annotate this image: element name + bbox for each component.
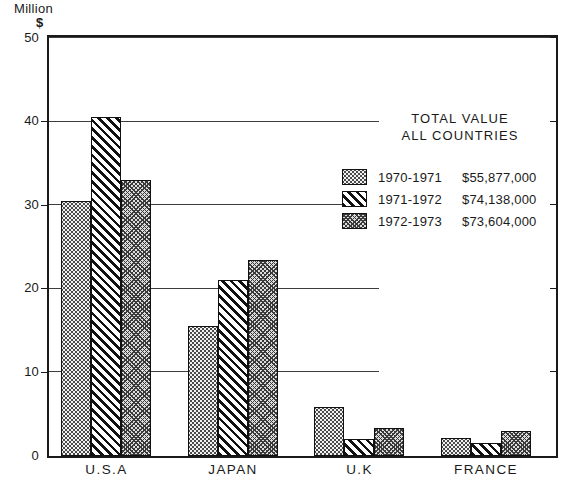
plot-area [47, 35, 558, 458]
y-axis-unit: $ [36, 15, 43, 30]
y-tick-label-30: 30 [5, 197, 39, 212]
right-tick-40 [550, 121, 556, 122]
legend-title-line-1: TOTAL VALUE [385, 110, 535, 127]
legend-row: 1971-1972$74,138,000 [342, 188, 540, 210]
bar [314, 407, 344, 456]
legend-swatch-icon [342, 191, 367, 207]
bar [374, 428, 404, 456]
legend-series-total: $55,877,000 [462, 170, 540, 185]
legend-series-total: $73,604,000 [462, 214, 540, 229]
y-tick-mark-20 [41, 288, 48, 289]
y-axis-title: Million [14, 2, 53, 15]
y-tick-label-10: 10 [5, 364, 39, 379]
legend-series-name: 1970-1971 [378, 170, 462, 185]
x-category-label: JAPAN [208, 462, 258, 477]
y-tick-label-40: 40 [5, 113, 39, 128]
y-tick-mark-40 [41, 121, 48, 122]
legend-swatch-icon [342, 169, 367, 185]
right-tick-50 [550, 37, 556, 38]
y-tick-mark-10 [41, 372, 48, 373]
legend-series-name: 1972-1973 [378, 214, 462, 229]
gridline-50 [49, 37, 555, 38]
y-tick-mark-30 [41, 205, 48, 206]
x-category-label: U.K [346, 462, 373, 477]
bar [61, 201, 91, 456]
right-tick-30 [550, 204, 556, 205]
legend-title: TOTAL VALUE ALL COUNTRIES [381, 110, 539, 144]
legend-title-line-2: ALL COUNTRIES [385, 127, 535, 144]
bar [344, 439, 374, 456]
x-category-label: FRANCE [454, 462, 518, 477]
legend-series-total: $74,138,000 [462, 192, 540, 207]
right-tick-10 [550, 371, 556, 372]
x-category-label: U.S.A [85, 462, 127, 477]
bar [471, 443, 501, 456]
y-tick-label-20: 20 [5, 280, 39, 295]
bar [248, 260, 278, 456]
legend-swatch-icon [342, 213, 367, 229]
bar-chart: Million $ 01020304050 U.S.AJAPANU.KFRANC… [0, 0, 573, 482]
legend-row: 1972-1973$73,604,000 [342, 210, 540, 232]
bar [218, 280, 248, 456]
legend: 1970-1971$55,877,0001971-1972$74,138,000… [342, 166, 540, 232]
right-tick-20 [550, 288, 556, 289]
bar [121, 180, 151, 456]
legend-row: 1970-1971$55,877,000 [342, 166, 540, 188]
bar [441, 438, 471, 456]
y-tick-label-0: 0 [5, 448, 39, 463]
bar [91, 117, 121, 456]
bar [501, 431, 531, 456]
legend-series-name: 1971-1972 [378, 192, 462, 207]
bar [188, 326, 218, 456]
y-tick-label-50: 50 [5, 30, 39, 45]
